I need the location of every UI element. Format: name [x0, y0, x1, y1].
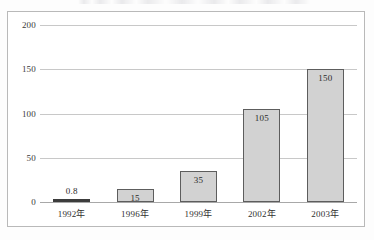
scanned-page: 050100150200 0.81992年151996年351999年10520…	[0, 0, 374, 240]
bar-value-label: 15	[111, 194, 159, 203]
bar-series: 0.81992年151996年351999年1052002年1502003年	[8, 12, 366, 228]
bar-1992年	[53, 199, 90, 202]
figure-frame: 050100150200 0.81992年151996年351999年10520…	[7, 11, 365, 227]
bar-value-label: 0.8	[48, 187, 96, 196]
cropped-caption-remnant	[78, 0, 318, 4]
x-axis-tick-label: 1996年	[105, 209, 165, 219]
bar-value-label: 35	[175, 176, 223, 185]
x-axis-tick-label: 1999年	[169, 209, 229, 219]
bar-2003年	[307, 69, 344, 202]
x-axis-tick-label: 2003年	[295, 209, 355, 219]
x-axis-tick-label: 2002年	[232, 209, 292, 219]
x-axis-tick-label: 1992年	[42, 209, 102, 219]
bar-value-label: 150	[301, 74, 349, 83]
bar-value-label: 105	[238, 114, 286, 123]
